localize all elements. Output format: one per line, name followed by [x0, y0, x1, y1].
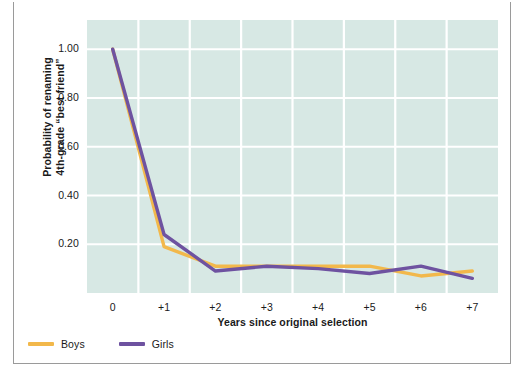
- x-tick-label: +6: [401, 301, 441, 313]
- x-tick-label: +5: [350, 301, 390, 313]
- y-axis-title-line1: Probability of renaming: [41, 32, 54, 202]
- y-tick-label: 1.00: [39, 42, 79, 54]
- legend-label: Boys: [61, 338, 85, 350]
- x-tick-label: 0: [93, 301, 133, 313]
- y-tick-label: 0.60: [39, 140, 79, 152]
- x-tick-label: +2: [195, 301, 235, 313]
- y-tick-label: 0.40: [39, 189, 79, 201]
- x-tick-label: +4: [298, 301, 338, 313]
- chart-legend: BoysGirls: [28, 338, 174, 350]
- y-tick-label: 0.80: [39, 91, 79, 103]
- chart-plot-svg: [87, 20, 498, 293]
- x-tick-label: +3: [247, 301, 287, 313]
- x-axis-title: Years since original selection: [87, 316, 498, 328]
- legend-item-boys: Boys: [28, 338, 85, 350]
- legend-item-girls: Girls: [119, 338, 174, 350]
- figure-container: Probability of renaming 4th-grade “best …: [0, 0, 524, 369]
- x-tick-label: +1: [144, 301, 184, 313]
- y-axis-title-line2: 4th-grade “best friend”: [54, 32, 67, 202]
- legend-swatch-icon: [28, 342, 54, 346]
- legend-swatch-icon: [119, 342, 145, 346]
- legend-label: Girls: [152, 338, 174, 350]
- x-tick-label: +7: [452, 301, 492, 313]
- plot-area: [87, 20, 498, 293]
- y-axis-title: Probability of renaming 4th-grade “best …: [41, 32, 67, 202]
- y-tick-label: 0.20: [39, 237, 79, 249]
- vertical-gridlines: [138, 20, 446, 293]
